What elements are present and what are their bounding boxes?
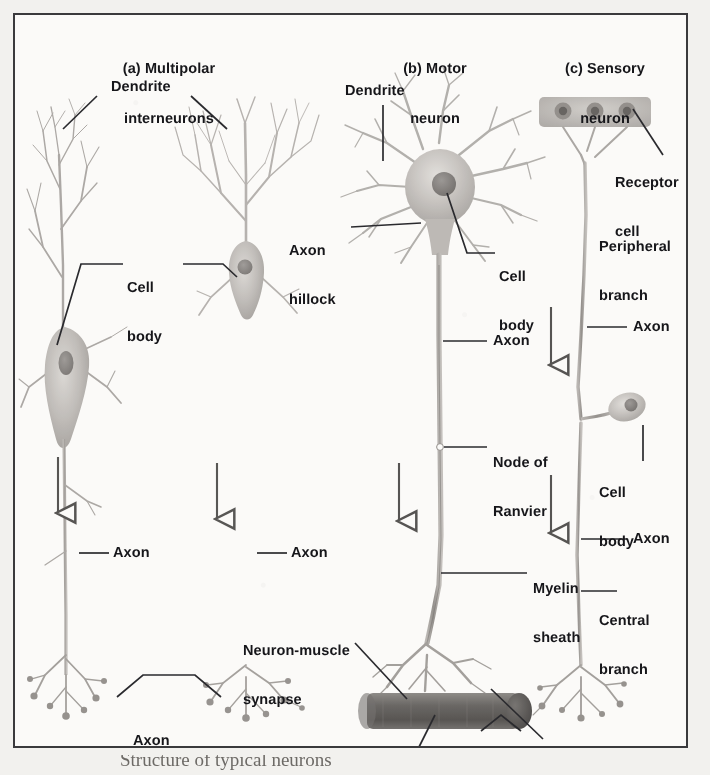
panel-c-title-line1: (c) Sensory	[535, 61, 675, 78]
motor-neuron	[341, 67, 545, 729]
label-b-cell-body-line2: body	[499, 318, 534, 334]
label-b-node-of-ranvier: Node of Ranvier	[493, 423, 548, 553]
label-c-peripheral-line1: Peripheral	[599, 239, 671, 255]
leader-b-hillock	[351, 223, 421, 227]
panel-b-title-line2: neuron	[360, 111, 510, 128]
label-a-axon-terminals: Axon terminals	[133, 701, 198, 748]
label-b-dendrite: Dendrite	[345, 83, 405, 99]
figure-frame: (a) Multipolar interneurons Dendrite Cel…	[13, 13, 688, 748]
label-b-myelin-sheath: Myelin sheath	[533, 549, 580, 679]
label-a-axon-left: Axon	[113, 545, 150, 561]
label-b-node-line1: Node of	[493, 455, 548, 471]
panel-a-title-line2: interneurons	[89, 111, 249, 128]
figure-caption: Structure of typical neurons	[120, 755, 332, 771]
panel-b-title-line1: (b) Motor	[360, 61, 510, 78]
label-a-cell-body-line1: Cell	[127, 280, 162, 296]
label-b-synapse-line2: synapse	[243, 692, 350, 708]
label-c-cell-body-line2: body	[599, 534, 634, 550]
label-a-cell-body-line2: body	[127, 329, 162, 345]
label-b-axon-hillock-line2: hillock	[289, 292, 336, 308]
label-a-cell-body: Cell body	[127, 248, 162, 378]
label-a-dendrite: Dendrite	[111, 79, 171, 95]
label-b-synapse-line1: Neuron-muscle	[243, 643, 350, 659]
label-c-axon-lower: Axon	[633, 531, 670, 547]
label-c-central-line1: Central	[599, 613, 650, 629]
interneuron-left	[19, 99, 127, 720]
label-c-peripheral-branch: Peripheral branch	[599, 207, 671, 337]
label-b-node-line2: Ranvier	[493, 504, 548, 520]
label-c-axon-upper: Axon	[633, 319, 670, 335]
label-b-cell-body-line1: Cell	[499, 269, 534, 285]
muscle-fiber	[367, 693, 519, 729]
leader-a-cellbody-right	[183, 264, 237, 277]
panel-c-title: (c) Sensory neuron	[535, 28, 675, 161]
label-b-myelin-line2: sheath	[533, 630, 580, 646]
figure-caption-strip: Structure of typical neurons	[0, 755, 710, 775]
label-b-axon: Axon	[493, 333, 530, 349]
label-a-axon-terminals-line1: Axon	[133, 733, 198, 748]
label-c-receptor-line1: Receptor	[615, 175, 679, 191]
label-a-axon-right: Axon	[291, 545, 328, 561]
label-c-cell-body: Cell body	[599, 453, 634, 583]
label-b-muscle: Muscle	[349, 747, 399, 748]
label-c-central-line2: branch	[599, 662, 650, 678]
label-b-axon-hillock: Axon hillock	[289, 211, 336, 341]
label-b-axon-hillock-line1: Axon	[289, 243, 336, 259]
panel-a-title-line1: (a) Multipolar	[89, 61, 249, 78]
panel-c-title-line2: neuron	[535, 111, 675, 128]
label-b-axon-terminals: Axon terminals	[545, 729, 610, 748]
label-c-cell-body-line1: Cell	[599, 485, 634, 501]
label-c-peripheral-line2: branch	[599, 288, 671, 304]
label-b-myelin-line1: Myelin	[533, 581, 580, 597]
label-c-central-branch: Central branch	[599, 581, 650, 711]
label-b-neuron-muscle-synapse: Neuron-muscle synapse	[243, 611, 350, 741]
